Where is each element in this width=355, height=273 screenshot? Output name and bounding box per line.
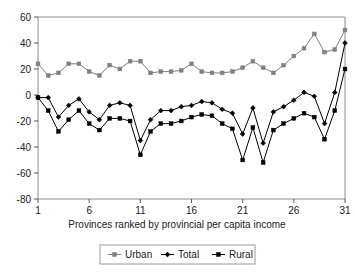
x-axis-title: Provinces ranked by provincial per capit… [68,219,286,230]
chart-container: 6040200-20-40-60-80 161116212631 Provinc… [0,0,355,273]
x-axis-ticks: 161116212631 [35,199,351,216]
legend-label: Rural [229,249,253,260]
chart-legend: UrbanTotalRural [100,245,255,264]
series-rural [36,67,347,164]
y-tick-label: 40 [20,38,32,49]
series-total [36,41,348,146]
y-tick-label: -60 [17,168,32,179]
legend-label: Total [178,249,199,260]
x-tick-label: 11 [135,205,146,216]
x-tick-label: 31 [339,205,351,216]
x-tick-label: 1 [35,205,41,216]
y-tick-label: -20 [17,116,32,127]
x-tick-label: 26 [288,205,300,216]
legend-label: Urban [125,249,152,260]
series-layer [36,28,348,164]
x-tick-label: 21 [237,205,249,216]
y-axis-ticks: 6040200-20-40-60-80 [17,12,38,205]
series-urban [36,28,347,77]
y-tick-label: 60 [20,12,32,23]
x-tick-label: 16 [186,205,198,216]
x-tick-label: 6 [86,205,92,216]
y-tick-label: -40 [17,142,32,153]
line-chart: 6040200-20-40-60-80 161116212631 Provinc… [0,0,355,273]
y-tick-label: -80 [17,194,32,205]
y-tick-label: 0 [25,90,31,101]
y-tick-label: 20 [20,64,32,75]
